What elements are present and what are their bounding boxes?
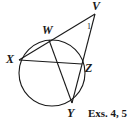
point-label-v: V (92, 0, 101, 13)
exercise-caption: Exs. 4, 5 (88, 107, 128, 119)
point-label-y: Y (67, 106, 76, 120)
circle (19, 40, 85, 106)
point-label-x: X (5, 52, 15, 66)
point-label-w: W (42, 23, 54, 37)
angle-1-label: 1 (87, 22, 91, 31)
segment-vx (19, 14, 95, 60)
point-label-z: Z (84, 61, 93, 75)
segment-wy (49, 40, 72, 103)
geometry-diagram: V W X Z Y 1 Exs. 4, 5 (0, 0, 137, 122)
segment-xz (19, 60, 82, 64)
segment-vy (72, 14, 95, 103)
